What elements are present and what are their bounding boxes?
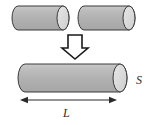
merged-cylinder-cap [113,64,127,92]
left-cylinder [12,6,69,30]
right-cylinder-cap [123,6,135,30]
merged-cylinder [18,64,127,92]
area-label: S [136,73,142,87]
figure-container: S L [0,0,152,125]
merged-cylinder-body [18,64,127,92]
length-label: L [62,106,70,120]
left-cylinder-cap [57,6,69,30]
cylinder-merge-diagram: S L [0,0,152,125]
right-cylinder [78,6,135,30]
